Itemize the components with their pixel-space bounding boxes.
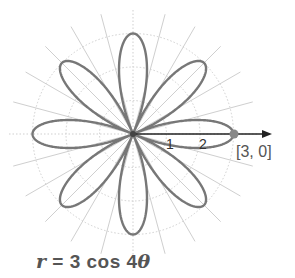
equation-label: r = 3 cos 4θ (36, 250, 151, 273)
eq-rest: = 3 cos 4 (52, 251, 137, 272)
eq-theta: θ (138, 250, 151, 272)
highlight-point (230, 130, 239, 139)
origin-point (130, 131, 136, 137)
polar-rose-plot: 1 2 [3, 0] (0, 0, 295, 278)
eq-r: r (36, 250, 47, 272)
point-label: [3, 0] (236, 143, 272, 160)
tick-label-1: 1 (166, 136, 174, 152)
tick-label-2: 2 (199, 136, 207, 152)
